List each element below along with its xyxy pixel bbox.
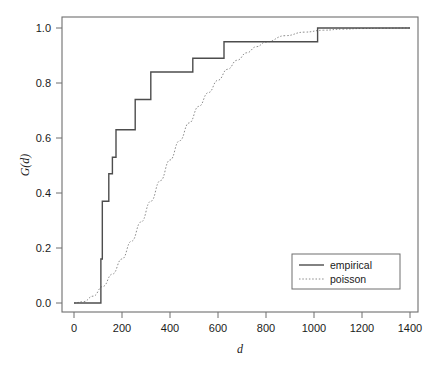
- x-tick-label: 0: [71, 322, 77, 334]
- chart-canvas: 1.0 0.8 0.6 0.4 0.2 0.0 0 200 400 600 80…: [0, 0, 439, 377]
- figure-background: [0, 0, 439, 377]
- y-tick-label: 0.4: [36, 187, 51, 199]
- x-tick-label: 400: [161, 322, 179, 334]
- x-tick-label: 1400: [398, 322, 422, 334]
- x-tick-label: 1200: [350, 322, 374, 334]
- x-tick-label: 800: [257, 322, 275, 334]
- y-tick-label: 0.0: [36, 297, 51, 309]
- y-tick-label: 0.8: [36, 77, 51, 89]
- x-tick-label: 600: [209, 322, 227, 334]
- y-tick-label: 0.2: [36, 242, 51, 254]
- y-axis-title: G(d): [18, 154, 32, 177]
- y-tick-label: 0.6: [36, 132, 51, 144]
- legend[interactable]: empirical poisson: [292, 254, 400, 289]
- y-tick-label: 1.0: [36, 22, 51, 34]
- x-tick-label: 1000: [302, 322, 326, 334]
- legend-label-empirical: empirical: [330, 259, 372, 271]
- x-tick-label: 200: [113, 322, 131, 334]
- legend-label-poisson: poisson: [330, 273, 366, 285]
- chart-figure: 1.0 0.8 0.6 0.4 0.2 0.0 0 200 400 600 80…: [0, 0, 439, 377]
- x-axis-title: d: [237, 342, 244, 356]
